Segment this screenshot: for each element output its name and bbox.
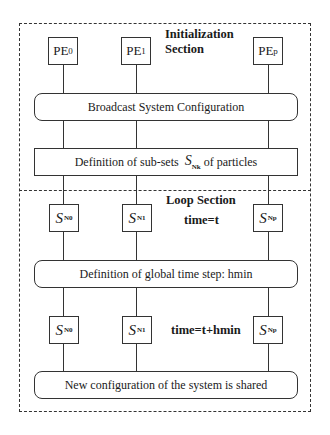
pe-0-box: PE0 — [48, 37, 78, 65]
subset-prefix: Definition of sub-sets — [75, 155, 179, 170]
time-t-label: time=t — [184, 213, 219, 228]
pe-1-box: PE1 — [121, 37, 151, 65]
s-n1-box-row2: SN1 — [122, 316, 152, 344]
shared-config-label: New configuration of the system is share… — [65, 378, 268, 393]
s-np-base: S — [259, 210, 267, 227]
pe-0-label: PE — [53, 43, 68, 59]
s-np-sub: Np — [268, 214, 277, 222]
s-n0-sub: N0 — [64, 326, 73, 334]
s-np-box-row2: SNp — [253, 316, 283, 344]
s-n0-sub: N0 — [64, 214, 73, 222]
shared-config-box: New configuration of the system is share… — [34, 371, 298, 399]
pe-1-sub: 1 — [141, 46, 146, 56]
pe-p-sub: p — [273, 46, 278, 56]
s-n1-base: S — [128, 322, 136, 339]
pe-0-sub: 0 — [68, 46, 73, 56]
s-np-sub: Np — [268, 326, 277, 334]
subset-symbol: SNk — [185, 153, 201, 171]
broadcast-config-box: Broadcast System Configuration — [34, 93, 298, 121]
global-time-step-box: Definition of global time step: hmin — [34, 260, 298, 288]
subset-symbol-base: S — [185, 153, 192, 168]
s-n1-sub: N1 — [137, 326, 146, 334]
global-time-step-label: Definition of global time step: hmin — [80, 267, 253, 282]
s-n1-base: S — [128, 210, 136, 227]
pe-1-label: PE — [126, 43, 141, 59]
s-n0-base: S — [55, 210, 63, 227]
s-n0-box-row2: SN0 — [49, 316, 79, 344]
loop-section-title: Loop Section — [166, 193, 236, 208]
s-np-box-row1: SNp — [253, 204, 283, 232]
subset-suffix: of particles — [204, 155, 258, 170]
pe-p-box: PEp — [253, 37, 283, 65]
s-n0-box-row1: SN0 — [49, 204, 79, 232]
s-np-base: S — [259, 322, 267, 339]
pe-p-label: PE — [258, 43, 273, 59]
broadcast-config-label: Broadcast System Configuration — [88, 100, 245, 115]
initialization-section-title: Initialization Section — [165, 27, 234, 57]
s-n1-sub: N1 — [137, 214, 146, 222]
s-n0-base: S — [55, 322, 63, 339]
title-line-1: Initialization — [165, 27, 234, 42]
s-n1-box-row1: SN1 — [122, 204, 152, 232]
title-line-2: Section — [165, 42, 234, 57]
subset-symbol-sub: Nk — [192, 163, 201, 171]
subset-definition-box: Definition of sub-sets SNk of particles — [34, 148, 298, 176]
time-t-plus-hmin-label: time=t+hmin — [171, 323, 241, 338]
